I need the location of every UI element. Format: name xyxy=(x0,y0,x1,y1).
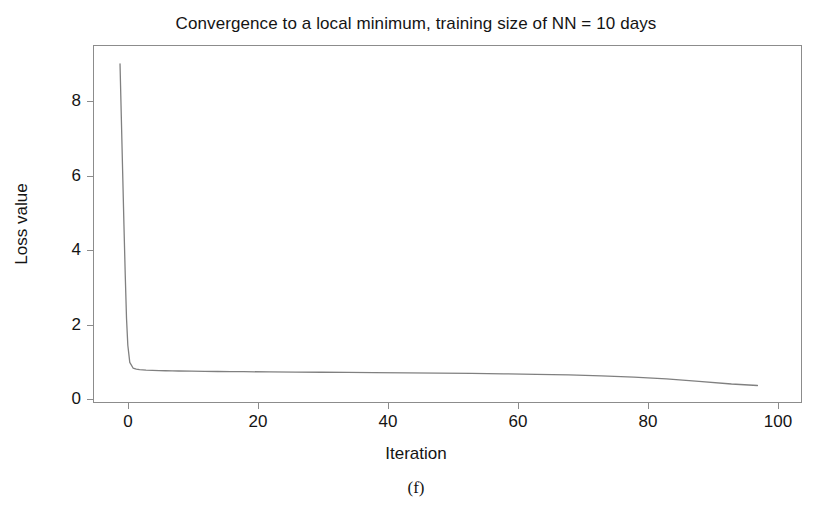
xtick-label-100: 100 xyxy=(764,412,792,432)
ytick-mark-2 xyxy=(87,325,93,326)
loss-curve-svg xyxy=(94,46,803,404)
loss-curve-line xyxy=(120,64,757,386)
xtick-label-20: 20 xyxy=(249,412,268,432)
y-axis-label: Loss value xyxy=(12,183,32,264)
ytick-label-6: 6 xyxy=(72,166,81,186)
x-axis-label: Iteration xyxy=(0,444,832,464)
xtick-label-0: 0 xyxy=(123,412,132,432)
xtick-mark-0 xyxy=(128,403,129,409)
ytick-mark-6 xyxy=(87,176,93,177)
ytick-label-8: 8 xyxy=(72,91,81,111)
xtick-label-80: 80 xyxy=(639,412,658,432)
xtick-mark-60 xyxy=(518,403,519,409)
figure-caption: (f) xyxy=(0,478,832,498)
ytick-mark-0 xyxy=(87,399,93,400)
ytick-label-4: 4 xyxy=(72,240,81,260)
figure-panel: Convergence to a local minimum, training… xyxy=(0,0,832,523)
ytick-label-2: 2 xyxy=(72,315,81,335)
xtick-mark-100 xyxy=(778,403,779,409)
chart-title: Convergence to a local minimum, training… xyxy=(0,14,832,34)
ytick-mark-8 xyxy=(87,101,93,102)
ytick-label-0: 0 xyxy=(72,389,81,409)
xtick-label-60: 60 xyxy=(509,412,528,432)
xtick-mark-80 xyxy=(648,403,649,409)
xtick-mark-20 xyxy=(258,403,259,409)
xtick-label-40: 40 xyxy=(379,412,398,432)
ytick-mark-4 xyxy=(87,250,93,251)
plot-area xyxy=(93,45,802,403)
xtick-mark-40 xyxy=(388,403,389,409)
